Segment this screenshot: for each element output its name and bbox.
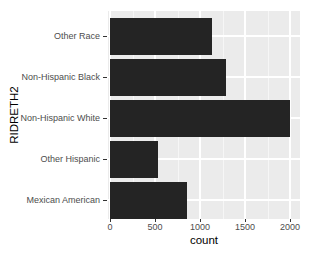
y-tick-mark: [103, 200, 107, 201]
bar-other-race: [110, 18, 212, 55]
bar-mexican-american: [110, 182, 187, 219]
bar-other-hispanic: [110, 141, 158, 178]
y-category-label-non-hispanic-white: Non-Hispanic White: [0, 113, 100, 124]
x-tick-label: 500: [133, 222, 177, 232]
plot-panel: [108, 11, 300, 219]
x-tick-label: 1000: [178, 222, 222, 232]
x-tick-label: 2000: [268, 222, 310, 232]
y-tick-mark: [103, 36, 107, 37]
x-tick-label: 0: [88, 222, 132, 232]
x-axis-title: count: [108, 234, 300, 246]
y-category-label-mexican-american: Mexican American: [0, 195, 100, 206]
bar-non-hispanic-white: [110, 100, 290, 137]
y-tick-mark: [103, 159, 107, 160]
bar-chart-figure: RIDRETH2 0500100015002000Other RaceNon-H…: [0, 0, 310, 255]
bar-non-hispanic-black: [110, 59, 226, 96]
y-category-label-non-hispanic-black: Non-Hispanic Black: [0, 72, 100, 83]
y-tick-mark: [103, 77, 107, 78]
y-category-label-other-hispanic: Other Hispanic: [0, 154, 100, 165]
y-category-label-other-race: Other Race: [0, 31, 100, 42]
x-tick-label: 1500: [223, 222, 267, 232]
y-tick-mark: [103, 118, 107, 119]
